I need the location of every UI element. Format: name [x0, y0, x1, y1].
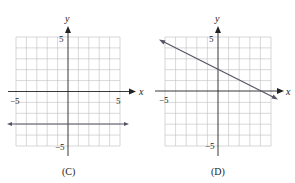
tick-label-y-min: −5 — [55, 142, 65, 152]
y-axis-label: y — [214, 13, 220, 24]
tick-label-x-max: 5 — [116, 96, 121, 106]
line-arrow-right-icon — [124, 122, 129, 126]
y-axis-arrow-icon — [215, 26, 221, 33]
x-axis-label: x — [138, 86, 144, 97]
line-arrow-right-icon — [272, 95, 279, 100]
graph-c-plot: y x 5 −5 −5 5 (C) — [0, 0, 150, 183]
y-axis-label: y — [64, 13, 70, 24]
line-arrow-left-icon — [7, 122, 12, 126]
tick-label-y-max: 5 — [59, 34, 64, 44]
tick-label-y-min: −5 — [205, 141, 215, 151]
graph-d: y x 5 −5 −5 (D) — [145, 0, 295, 183]
graph-c: y x 5 −5 −5 5 (C) — [0, 0, 150, 183]
x-axis-arrow-icon — [277, 88, 284, 94]
tick-label-x-min: −5 — [159, 95, 169, 105]
x-axis-label: x — [285, 86, 291, 97]
graph-caption: (C) — [62, 166, 75, 178]
tick-label-y-max: 5 — [209, 34, 214, 44]
graph-caption: (D) — [211, 166, 225, 178]
tick-label-x-min: −5 — [10, 96, 20, 106]
y-axis-arrow-icon — [65, 26, 71, 33]
line-arrow-left-icon — [159, 40, 166, 45]
x-axis-arrow-icon — [129, 89, 136, 95]
graph-d-plot: y x 5 −5 −5 (D) — [145, 0, 295, 183]
